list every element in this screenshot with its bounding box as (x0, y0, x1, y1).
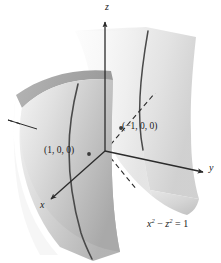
point-label-negative-vertex: (−1, 0, 0) (122, 122, 157, 132)
y-axis-label: y (209, 163, 213, 173)
front-sheet-surface (14, 70, 120, 261)
equation-equals-one: = 1 (173, 218, 189, 229)
point-label-positive-vertex: (1, 0, 0) (44, 146, 74, 156)
equation-annotation: x2 − z2 = 1 (147, 218, 188, 229)
hyperbolic-cylinder-figure: z y x (1, 0, 0) (−1, 0, 0) x2 − z2 = 1 (0, 0, 221, 263)
x-axis-label: x (40, 200, 44, 210)
vertex-point-positive (87, 152, 91, 156)
equation-minus-sign: − (155, 218, 166, 229)
z-axis-label: z (105, 2, 109, 12)
